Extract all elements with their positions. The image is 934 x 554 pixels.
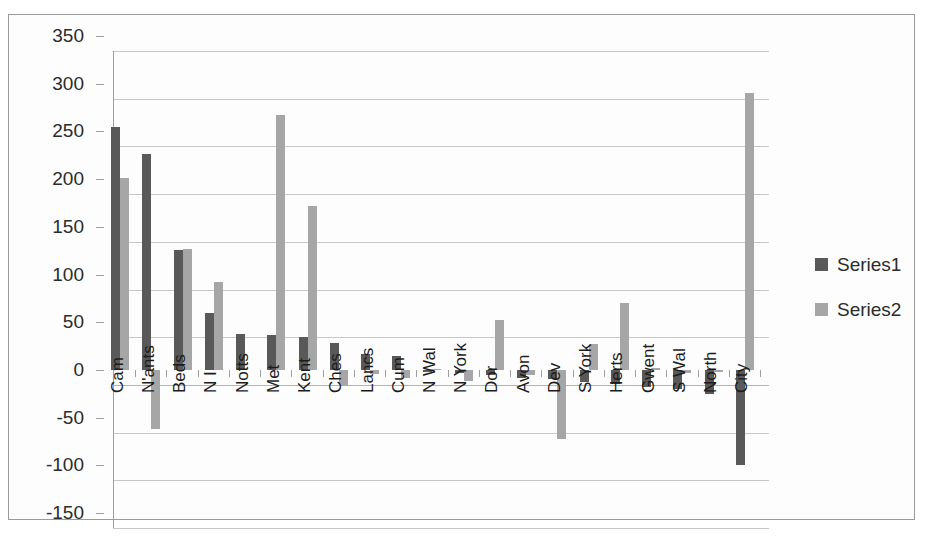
x-axis-category-label: Ches bbox=[327, 353, 344, 393]
gridline bbox=[113, 242, 769, 243]
bar-series1-cam[interactable] bbox=[111, 127, 120, 370]
x-axis-tick bbox=[385, 370, 386, 377]
y-axis-tick bbox=[96, 513, 104, 514]
x-axis-tick bbox=[135, 370, 136, 377]
x-axis-tick bbox=[479, 370, 480, 377]
gridline bbox=[113, 433, 769, 434]
x-axis-category-label: City bbox=[733, 364, 750, 393]
gridline bbox=[113, 146, 769, 147]
x-axis-category-label: S York bbox=[577, 344, 594, 393]
x-axis-tick bbox=[260, 370, 261, 377]
y-axis-tick-label: -150 bbox=[18, 503, 84, 522]
x-axis-category-label: Dor bbox=[483, 365, 500, 392]
x-axis-category-label: N'ants bbox=[140, 345, 157, 393]
x-axis-category-label: Cum bbox=[390, 357, 407, 393]
gridline bbox=[113, 99, 769, 100]
x-axis-tick bbox=[635, 370, 636, 377]
x-axis-tick bbox=[760, 370, 761, 377]
gridline bbox=[113, 528, 769, 529]
x-axis-tick bbox=[573, 370, 574, 377]
y-axis-tick-label: -100 bbox=[18, 455, 84, 474]
x-axis-category-label: Avon bbox=[515, 354, 532, 392]
y-axis-tick bbox=[96, 179, 104, 180]
legend-label: Series2 bbox=[837, 300, 901, 319]
x-axis-category-label: Notts bbox=[234, 353, 251, 393]
chart-legend: Series1Series2 bbox=[815, 255, 901, 345]
x-axis-tick bbox=[229, 370, 230, 377]
bar-series2-cam[interactable] bbox=[120, 178, 129, 370]
x-axis-tick bbox=[448, 370, 449, 377]
gridline bbox=[113, 51, 769, 52]
x-axis-tick bbox=[291, 370, 292, 377]
bar-series2-city[interactable] bbox=[745, 93, 754, 370]
x-axis-category-label: Met bbox=[265, 365, 282, 393]
y-axis-tick bbox=[96, 465, 104, 466]
x-axis-tick bbox=[354, 370, 355, 377]
gridline bbox=[113, 194, 769, 195]
x-axis-category-label: Kent bbox=[296, 358, 313, 393]
x-axis-tick bbox=[604, 370, 605, 377]
x-axis-category-label: Gwent bbox=[640, 344, 657, 393]
y-axis-tick bbox=[96, 322, 104, 323]
x-axis-category-label: Lancs bbox=[359, 348, 376, 393]
x-axis-category-label: S Wal bbox=[671, 348, 688, 393]
y-axis-tick bbox=[96, 84, 104, 85]
bar-series2-met[interactable] bbox=[276, 115, 285, 370]
y-axis-tick-label: 100 bbox=[18, 265, 84, 284]
x-axis-category-label: N York bbox=[452, 343, 469, 393]
x-axis-tick bbox=[698, 370, 699, 377]
x-axis-tick bbox=[541, 370, 542, 377]
x-axis-tick bbox=[198, 370, 199, 377]
legend-label: Series1 bbox=[837, 255, 901, 274]
x-axis-tick bbox=[510, 370, 511, 377]
y-axis-tick-label: 200 bbox=[18, 169, 84, 188]
gridline bbox=[113, 480, 769, 481]
x-axis-category-label: Dev bbox=[546, 363, 563, 393]
y-axis-tick-label: 250 bbox=[18, 121, 84, 140]
x-axis-tick bbox=[666, 370, 667, 377]
bar-series1-beds[interactable] bbox=[174, 250, 183, 370]
y-axis-tick bbox=[96, 36, 104, 37]
y-axis-tick bbox=[96, 418, 104, 419]
plot-area bbox=[113, 51, 769, 528]
x-axis-category-label: N I bbox=[202, 371, 219, 393]
y-axis-tick bbox=[96, 227, 104, 228]
y-axis-tick-label: 50 bbox=[18, 312, 84, 331]
x-axis-tick bbox=[416, 370, 417, 377]
y-axis-tick-label: 300 bbox=[18, 74, 84, 93]
y-axis-tick bbox=[96, 275, 104, 276]
x-axis-category-label: Herts bbox=[608, 352, 625, 393]
x-axis-tick bbox=[166, 370, 167, 377]
y-axis-tick bbox=[96, 131, 104, 132]
x-axis-category-label: N Wal bbox=[421, 347, 438, 393]
y-axis-tick-label: 350 bbox=[18, 26, 84, 45]
x-axis-tick bbox=[323, 370, 324, 377]
x-axis-category-label: Beds bbox=[171, 354, 188, 393]
y-axis-tick-label: -50 bbox=[18, 408, 84, 427]
y-axis-tick-label: 0 bbox=[18, 360, 84, 379]
legend-swatch-icon bbox=[815, 303, 828, 316]
bar-series2-dor[interactable] bbox=[495, 320, 504, 370]
y-axis-tick-label: 150 bbox=[18, 217, 84, 236]
y-axis-tick bbox=[96, 370, 104, 371]
legend-swatch-icon bbox=[815, 258, 828, 271]
bar-series2-kent[interactable] bbox=[308, 206, 317, 370]
legend-item-series2[interactable]: Series2 bbox=[815, 300, 901, 319]
bar-series1-n-i[interactable] bbox=[205, 313, 214, 370]
x-axis-tick bbox=[729, 370, 730, 377]
x-axis-category-label: Cam bbox=[109, 357, 126, 393]
bar-series1-n-ants[interactable] bbox=[142, 154, 151, 370]
bar-series2-n-i[interactable] bbox=[214, 282, 223, 370]
x-axis-category-label: North bbox=[702, 351, 719, 393]
legend-item-series1[interactable]: Series1 bbox=[815, 255, 901, 274]
gridline bbox=[113, 290, 769, 291]
bar-series2-beds[interactable] bbox=[183, 249, 192, 370]
chart-frame: Series1Series2 350300250200150100500-50-… bbox=[8, 14, 915, 520]
